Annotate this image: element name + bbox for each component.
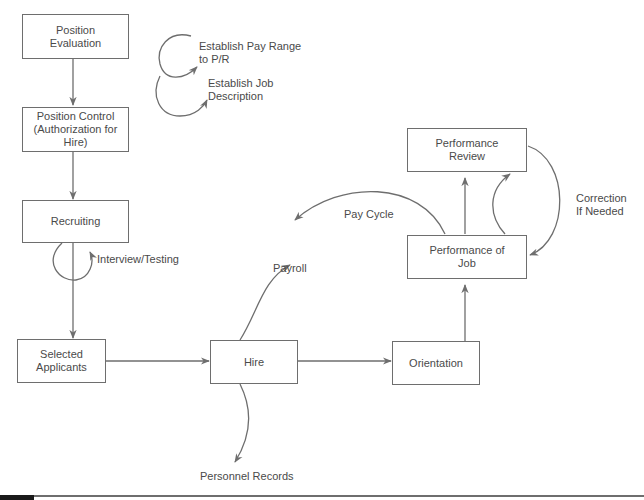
node-performance-review: Performance Review xyxy=(407,128,527,172)
label-establish-pay-range: Establish Pay Range to P/R xyxy=(199,40,301,66)
edge-correction xyxy=(528,146,560,255)
node-position-evaluation: Position Evaluation xyxy=(22,14,129,59)
bottom-corner-block xyxy=(0,495,34,500)
label-interview-testing: Interview/Testing xyxy=(97,253,179,266)
label-pay-cycle: Pay Cycle xyxy=(344,208,394,221)
edge-hire-to-personnel xyxy=(235,384,248,462)
node-recruiting: Recruiting xyxy=(22,200,129,243)
node-hire: Hire xyxy=(210,340,298,384)
edge-hire-to-payroll xyxy=(240,265,290,340)
bottom-rule xyxy=(0,495,644,497)
label-establish-job-description: Establish Job Description xyxy=(208,77,273,103)
node-orientation: Orientation xyxy=(392,341,480,385)
node-performance-of-job: Performance of Job xyxy=(407,235,527,279)
edge-job-review-loop xyxy=(493,174,510,234)
job-description-loop xyxy=(156,76,207,116)
label-payroll: Payroll xyxy=(273,262,307,275)
node-selected-applicants: Selected Applicants xyxy=(17,339,106,383)
diagram-edges xyxy=(0,0,644,500)
label-correction-if-needed: Correction If Needed xyxy=(576,192,627,218)
pay-range-loop xyxy=(159,35,197,77)
node-position-control: Position Control (Authorization for Hire… xyxy=(22,107,129,152)
label-personnel-records: Personnel Records xyxy=(200,470,294,483)
